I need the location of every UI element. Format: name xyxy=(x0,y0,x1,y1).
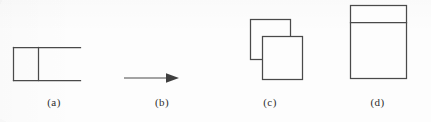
panel-caption-c: (c) xyxy=(216,96,324,109)
figure-diagram: (a) (b) (c) xyxy=(0,0,431,122)
panel-caption-b: (b) xyxy=(108,96,216,109)
panel-caption-a: (a) xyxy=(0,96,108,109)
figure-panel-a: (a) xyxy=(0,0,108,122)
outer-square xyxy=(351,6,407,79)
panel-caption-d: (d) xyxy=(324,96,431,109)
figure-panel-d: (d) xyxy=(324,0,431,122)
front-square xyxy=(263,37,303,80)
figure-panel-b: (b) xyxy=(108,0,216,122)
figure-panel-c: (c) xyxy=(216,0,324,122)
